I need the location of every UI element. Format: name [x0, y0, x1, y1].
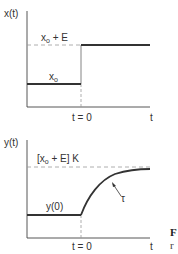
bottom-initial-value-label: y(0)	[46, 201, 63, 212]
caption-fragment: F r	[170, 226, 177, 251]
bottom-final-value-label: [xo + E] K	[37, 153, 79, 165]
time-constant-label: τ	[121, 193, 125, 204]
top-plot: x(t) xo + E xo t = 0 t	[4, 8, 153, 123]
caption-line-1: F	[170, 226, 177, 238]
top-upper-level-label: xo + E	[41, 32, 68, 44]
arrowhead-icon	[112, 182, 116, 187]
bottom-x-axis-label: t	[150, 241, 153, 252]
top-lower-level-label: xo	[49, 71, 58, 83]
step-response-diagram: x(t) xo + E xo t = 0 t y(t) [xo + E] K y…	[0, 0, 178, 254]
bottom-y-axis-label: y(t)	[4, 137, 18, 148]
top-step-time-label: t = 0	[72, 112, 92, 123]
bottom-plot: y(t) [xo + E] K y(0) τ t = 0 t	[4, 137, 153, 252]
bottom-step-time-label: t = 0	[72, 241, 92, 252]
top-y-axis-label: x(t)	[4, 8, 18, 19]
top-x-axis-label: t	[150, 112, 153, 123]
caption-line-2: r	[170, 239, 174, 251]
bottom-response-curve	[81, 169, 150, 215]
